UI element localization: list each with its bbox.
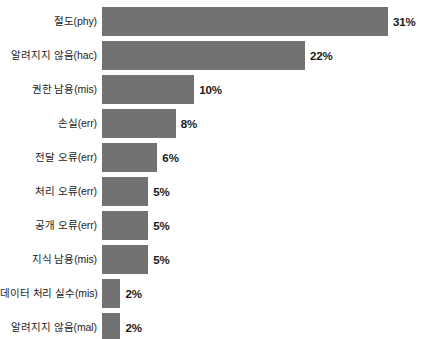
- value-label: 6%: [162, 152, 178, 164]
- bar-row: 알려지지 않음(mal)2%: [0, 313, 438, 339]
- bar-row: 권한 남용(mis)10%: [0, 75, 438, 104]
- bar-track: 22%: [102, 41, 438, 70]
- category-label: 데이터 처리 실수(mis): [0, 287, 102, 299]
- value-label: 2%: [125, 288, 141, 300]
- bar: [102, 211, 148, 240]
- category-label: 손실(err): [0, 117, 102, 129]
- bar-track: 5%: [102, 211, 438, 240]
- category-label: 지식 남용(mis): [0, 253, 102, 265]
- bar-row: 전달 오류(err)6%: [0, 143, 438, 172]
- category-label: 처리 오류(err): [0, 185, 102, 197]
- category-label: 전달 오류(err): [0, 151, 102, 163]
- bar: [102, 313, 120, 339]
- value-label: 31%: [393, 16, 416, 28]
- bar-rows: 절도(phy)31%알려지지 않음(hac)22%권한 남용(mis)10%손실…: [0, 7, 438, 339]
- bar: [102, 279, 120, 308]
- bar-track: 8%: [102, 109, 438, 138]
- bar: [102, 7, 388, 36]
- bar-track: 5%: [102, 245, 438, 274]
- value-label: 8%: [181, 118, 197, 130]
- bar-track: 2%: [102, 313, 438, 339]
- value-label: 2%: [125, 322, 141, 334]
- value-label: 10%: [199, 84, 222, 96]
- bar-track: 6%: [102, 143, 438, 172]
- bar-track: 10%: [102, 75, 438, 104]
- value-label: 5%: [153, 220, 169, 232]
- bar-row: 손실(err)8%: [0, 109, 438, 138]
- bar-row: 절도(phy)31%: [0, 7, 438, 36]
- value-label: 5%: [153, 186, 169, 198]
- bar: [102, 245, 148, 274]
- bar: [102, 143, 157, 172]
- bar-row: 지식 남용(mis)5%: [0, 245, 438, 274]
- bar-chart: 절도(phy)31%알려지지 않음(hac)22%권한 남용(mis)10%손실…: [0, 0, 438, 339]
- value-label: 5%: [153, 254, 169, 266]
- bar: [102, 75, 194, 104]
- bar-row: 데이터 처리 실수(mis)2%: [0, 279, 438, 308]
- bar: [102, 177, 148, 206]
- bar-track: 5%: [102, 177, 438, 206]
- bar-track: 2%: [102, 279, 438, 308]
- category-label: 공개 오류(err): [0, 219, 102, 231]
- category-label: 알려지지 않음(hac): [0, 49, 102, 61]
- value-label: 22%: [310, 50, 333, 62]
- category-label: 알려지지 않음(mal): [0, 321, 102, 333]
- bar-row: 공개 오류(err)5%: [0, 211, 438, 240]
- category-label: 권한 남용(mis): [0, 83, 102, 95]
- bar-row: 처리 오류(err)5%: [0, 177, 438, 206]
- category-label: 절도(phy): [0, 15, 102, 27]
- bar-row: 알려지지 않음(hac)22%: [0, 41, 438, 70]
- bar: [102, 41, 305, 70]
- bar: [102, 109, 176, 138]
- bar-track: 31%: [102, 7, 438, 36]
